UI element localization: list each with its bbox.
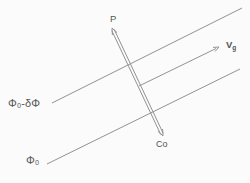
label-phase-upper: Φ₀-δΦ [8, 98, 40, 109]
wavefront-line-lower [47, 69, 240, 164]
label-phase-lower: Φ₀ [26, 155, 39, 166]
phase-band-edge-left [112, 31, 161, 135]
label-vg-subscript: g [232, 44, 236, 51]
label-co: Co [156, 140, 168, 149]
label-group-velocity: Vg [226, 40, 236, 52]
wavefront-line-upper [52, 8, 242, 103]
wave-propagation-diagram: P Vg Co Φ₀-δΦ Φ₀ [0, 0, 250, 183]
phase-band-edge-right [114, 29, 163, 133]
label-p: P [110, 14, 116, 24]
